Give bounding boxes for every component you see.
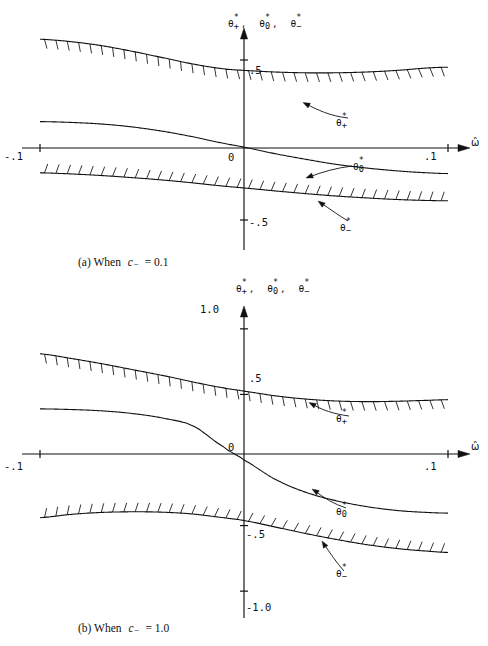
panel-b-curve-label-theta-plus: θ*+: [336, 413, 342, 424]
panel-b-ytick-neg0p5: -.5: [246, 528, 265, 540]
panel-a-svg: [0, 0, 488, 300]
panel-b-ytick-neg1p0: -1.0: [246, 601, 271, 613]
panel-b-svg: [0, 270, 488, 646]
panel-b-caption-text: (b) When: [78, 622, 122, 634]
panel-a-curve-label-theta-plus: θ*+: [336, 117, 342, 128]
panel-b: θ*+, θ*0, θ*− 1.0 .5 0 -.5 -1.0 -.1 .1 ω…: [0, 270, 488, 646]
panel-b-xtick-0p1: .1: [424, 460, 437, 472]
panel-b-curve-label-theta-zero: θ*0: [336, 506, 342, 517]
panel-a: θ*+, θ*0, θ*− .5 -.5 0 -.1 .1 ω̂ θ*+ θ*0…: [0, 0, 488, 300]
panel-b-caption-eq: = 1.0: [145, 622, 169, 634]
panel-b-xaxis-label: ω̂: [471, 441, 479, 452]
panel-a-yaxis-label: θ*+, θ*0, θ*−: [228, 18, 296, 29]
figure-two-panel-theta-plots: θ*+, θ*0, θ*− .5 -.5 0 -.1 .1 ω̂ θ*+ θ*0…: [0, 0, 488, 646]
panel-a-ytick-0p5: .5: [249, 64, 262, 76]
panel-a-xtick-0p1: .1: [424, 150, 437, 162]
panel-a-caption: (a) When c− = 0.1: [78, 256, 169, 268]
panel-a-xaxis-label: ω̂: [471, 137, 479, 148]
panel-a-ytick-neg0p5: -.5: [249, 216, 268, 228]
panel-a-caption-eq: = 0.1: [145, 256, 169, 268]
panel-a-caption-text: (a) When: [78, 256, 121, 268]
panel-a-xtick-neg0p1: -.1: [4, 150, 23, 162]
panel-b-ytick-zero: 0: [228, 441, 234, 453]
panel-b-curve-label-theta-minus: θ*−: [336, 568, 342, 579]
panel-b-xtick-neg0p1: -.1: [4, 460, 23, 472]
panel-b-yaxis-label: θ*+, θ*0, θ*−: [236, 283, 304, 294]
panel-b-caption: (b) When c− = 1.0: [78, 622, 169, 634]
panel-b-ytick-0p5: .5: [249, 372, 262, 384]
panel-b-ytick-1p0: 1.0: [200, 303, 219, 315]
panel-a-curve-label-theta-minus: θ*−: [340, 222, 346, 233]
panel-a-ytick-zero: 0: [228, 151, 234, 163]
panel-a-curve-label-theta-zero: θ*0: [353, 161, 359, 172]
